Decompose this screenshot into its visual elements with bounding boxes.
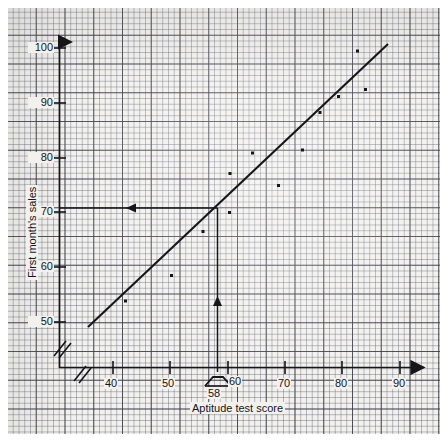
regression-line xyxy=(88,44,388,327)
y-tick-label-50: 50 xyxy=(28,316,54,327)
data-point xyxy=(124,300,127,303)
x-tick-label-60: 60 xyxy=(228,376,242,387)
data-point xyxy=(364,88,367,91)
plot-overlay xyxy=(0,0,448,442)
x-tick-label-80: 80 xyxy=(334,378,348,389)
y-tick-label-100: 100 xyxy=(28,42,54,53)
data-point xyxy=(319,111,322,114)
data-point xyxy=(202,230,205,233)
y-tick-label-80: 80 xyxy=(28,152,54,163)
x-tick-label-70: 70 xyxy=(277,378,291,389)
x-axis-break-mark xyxy=(74,366,91,383)
figure-canvas: 100 90 80 70 60 50 40 50 60 70 80 90 58 … xyxy=(0,0,448,442)
construction-line-horizontal xyxy=(60,204,218,213)
y-tick-label-90: 90 xyxy=(28,97,54,108)
data-point xyxy=(301,149,304,152)
construction-line-vertical xyxy=(213,208,222,372)
data-point xyxy=(229,172,232,175)
data-point xyxy=(277,184,280,187)
data-point xyxy=(251,152,254,155)
x-tick-label-40: 40 xyxy=(104,378,118,389)
data-point xyxy=(337,95,340,98)
data-point xyxy=(170,274,173,277)
data-point xyxy=(228,211,231,214)
x-tick-label-50: 50 xyxy=(161,378,175,389)
y-axis-title: First month's sales xyxy=(26,185,38,280)
x-tick-label-90: 90 xyxy=(392,378,406,389)
y-axis-break-mark xyxy=(54,341,71,358)
prediction-input-value: 58 xyxy=(207,387,221,399)
scatter-points xyxy=(124,50,367,303)
data-point xyxy=(356,50,359,53)
x-axis-title: Aptitude test score xyxy=(190,402,285,414)
